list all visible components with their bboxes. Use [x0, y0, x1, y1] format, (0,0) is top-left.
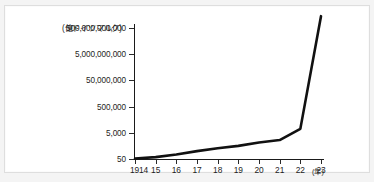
figure-root: (億ドイツマルク) 500,000,000,0005,000,000,00050…	[0, 0, 374, 182]
series-line-currency-circulation	[135, 16, 321, 158]
series-line-chart	[5, 6, 371, 174]
plot-area: (億ドイツマルク) 500,000,000,0005,000,000,00050…	[5, 6, 371, 174]
chart-panel: (億ドイツマルク) 500,000,000,0005,000,000,00050…	[4, 5, 370, 173]
